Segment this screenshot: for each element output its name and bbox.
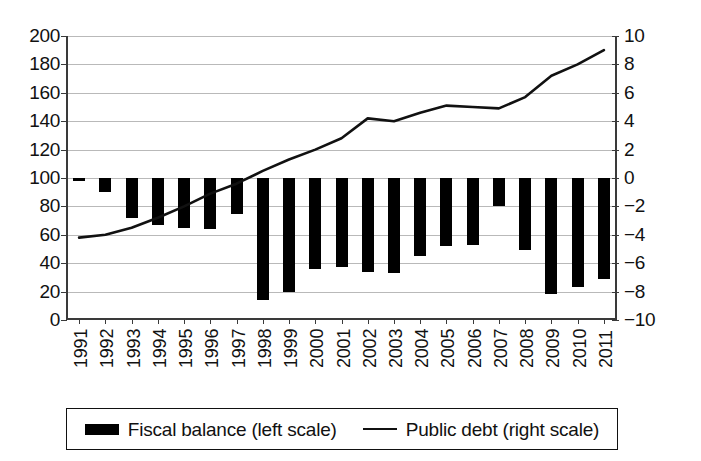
fiscal-balance-public-debt-chart: 020406080100120140160180200 −10−8−6−4−20… (0, 0, 701, 461)
x-axis-tick-label: 2004 (413, 329, 431, 368)
x-axis-tick-label: 1999 (282, 329, 300, 368)
x-axis-tick-label: 1991 (72, 329, 90, 368)
left-axis-tick-label: 80 (4, 196, 60, 215)
public-debt-line (66, 36, 617, 320)
right-axis-tick-label: −2 (624, 196, 684, 215)
x-axis-tick-label: 2001 (335, 329, 353, 368)
x-axis-tick-label: 1995 (177, 329, 195, 368)
left-axis-tick-label: 200 (4, 26, 60, 45)
x-axis-tick-label: 2010 (571, 329, 589, 368)
left-axis-tick-label: 0 (4, 310, 60, 329)
x-axis-tick-label: 2008 (518, 329, 536, 368)
x-axis-tick-label: 1993 (125, 329, 143, 368)
x-axis-tick-label: 1994 (151, 329, 169, 368)
legend-item-public-debt: Public debt (right scale) (363, 420, 600, 439)
left-axis-tick-label: 20 (4, 282, 60, 301)
x-axis-tick-label: 2011 (597, 330, 615, 368)
bar-swatch-icon (85, 424, 119, 435)
left-axis-tick-label: 120 (4, 140, 60, 159)
legend-label-fiscal-balance: Fiscal balance (left scale) (128, 420, 337, 439)
x-axis-tick-label: 2000 (308, 329, 326, 368)
x-axis-tick-label: 1997 (230, 329, 248, 368)
left-axis-tick-label: 60 (4, 225, 60, 244)
right-axis-tick-label: 2 (624, 140, 684, 159)
public-debt-polyline (79, 50, 604, 237)
x-axis-tick-label: 1992 (98, 329, 116, 368)
x-axis-tick-label: 1998 (256, 329, 274, 368)
left-axis-tick-label: 140 (4, 111, 60, 130)
right-axis-tick-label: 4 (624, 111, 684, 130)
legend-label-public-debt: Public debt (right scale) (406, 420, 600, 439)
left-axis-tick-label: 40 (4, 253, 60, 272)
plot-area (66, 36, 617, 320)
right-axis-tick-label: −10 (624, 310, 684, 329)
x-axis-tick-label: 2006 (466, 329, 484, 368)
left-axis-tick-label: 180 (4, 54, 60, 73)
right-axis-tick-label: −8 (624, 282, 684, 301)
right-axis-tick-label: 10 (624, 26, 684, 45)
x-axis-tick-label: 1996 (203, 329, 221, 368)
right-axis-tick-label: −6 (624, 253, 684, 272)
line-swatch-icon (363, 428, 397, 430)
x-axis-tick-label: 2003 (387, 329, 405, 368)
right-axis-tick-label: 6 (624, 83, 684, 102)
left-axis-tick-label: 160 (4, 83, 60, 102)
right-axis-tick-label: −4 (624, 225, 684, 244)
x-axis-tick-label: 2002 (361, 329, 379, 368)
left-axis-tick (61, 320, 67, 321)
right-axis-tick-label: 0 (624, 168, 684, 187)
x-axis-tick-label: 2009 (544, 329, 562, 368)
legend-item-fiscal-balance: Fiscal balance (left scale) (85, 420, 337, 439)
chart-legend: Fiscal balance (left scale) Public debt … (66, 408, 618, 450)
x-axis-tick-label: 2007 (492, 329, 510, 368)
x-axis-tick-label: 2005 (439, 329, 457, 368)
left-axis-tick-label: 100 (4, 168, 60, 187)
right-axis-tick-label: 8 (624, 54, 684, 73)
right-axis-tick (612, 320, 619, 321)
